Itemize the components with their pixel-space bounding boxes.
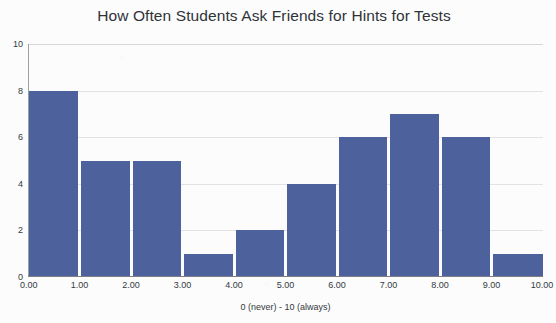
y-tick-label-8: 8: [18, 86, 23, 96]
x-tick-label-8: 8.00: [431, 280, 449, 290]
y-tick-label-4: 4: [18, 179, 23, 189]
bar: [287, 184, 336, 277]
bar: [493, 254, 543, 277]
bar: [236, 230, 285, 277]
y-tick-label-10: 10: [13, 39, 23, 49]
bar: [81, 161, 130, 278]
x-tick-label-1: 1.00: [71, 280, 89, 290]
x-tick-label-6: 6.00: [328, 280, 346, 290]
x-tick-label-10: 10.00: [531, 280, 554, 290]
x-tick-label-2: 2.00: [122, 280, 140, 290]
bar: [133, 161, 182, 278]
histogram-figure: How Often Students Ask Friends for Hints…: [0, 0, 556, 323]
x-tick-label-5: 5.00: [277, 280, 295, 290]
x-tick-label-9: 9.00: [483, 280, 501, 290]
x-tick-label-3: 3.00: [174, 280, 192, 290]
y-tick-label-2: 2: [18, 225, 23, 235]
bar: [442, 137, 491, 277]
chart-title: How Often Students Ask Friends for Hints…: [0, 7, 548, 25]
x-axis-title: 0 (never) - 10 (always): [28, 302, 543, 312]
y-axis-line: [28, 44, 29, 277]
bar: [390, 114, 439, 277]
y-tick-label-6: 6: [18, 132, 23, 142]
bar: [184, 254, 233, 277]
bar-series: [28, 44, 543, 277]
x-axis-line: [28, 276, 543, 277]
x-tick-label-7: 7.00: [380, 280, 398, 290]
x-tick-label-0: 0.00: [20, 280, 38, 290]
bar: [339, 137, 388, 277]
bar: [28, 91, 78, 277]
plot-area: 0246810 0.001.002.003.004.005.006.007.00…: [28, 44, 543, 277]
x-tick-label-4: 4.00: [225, 280, 243, 290]
